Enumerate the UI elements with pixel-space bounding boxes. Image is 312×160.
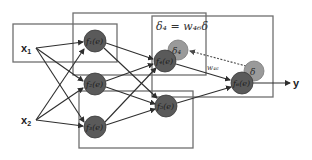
error-node-delta-label: δ [250, 67, 255, 77]
neuron-5: f₅(e) [155, 95, 177, 117]
neuron-1: f₁(e) [84, 30, 106, 52]
neuron-2: f₂(e) [84, 73, 106, 95]
neuron-3-label: f₃(e) [85, 123, 103, 132]
neuron-2-label: f₂(e) [85, 80, 103, 89]
neuron-6: f₆(e) [231, 72, 253, 94]
neuron-6-label: f₆(e) [232, 79, 250, 88]
output-y-label: y [293, 77, 300, 89]
neuron-3: f₃(e) [84, 116, 106, 138]
input-x2-label: x2 [21, 114, 31, 127]
neural-network-diagram: δ₄ δ f₁(e) f₂(e) f₃(e) f₄(e) f₅(e) f₆(e)… [0, 0, 312, 160]
input-x1-label: x1 [21, 42, 31, 55]
neuron-1-label: f₁(e) [85, 37, 103, 46]
neuron-4-label: f₄(e) [155, 57, 173, 66]
hidden-edges [104, 43, 157, 125]
input-edges [36, 42, 84, 126]
weight-w46-label: w₄₆ [207, 64, 219, 72]
neuron-4: f₄(e) [154, 50, 176, 72]
delta-equation: δ₄ = w₄₆δ [156, 20, 208, 33]
neuron-5-label: f₅(e) [156, 102, 174, 111]
